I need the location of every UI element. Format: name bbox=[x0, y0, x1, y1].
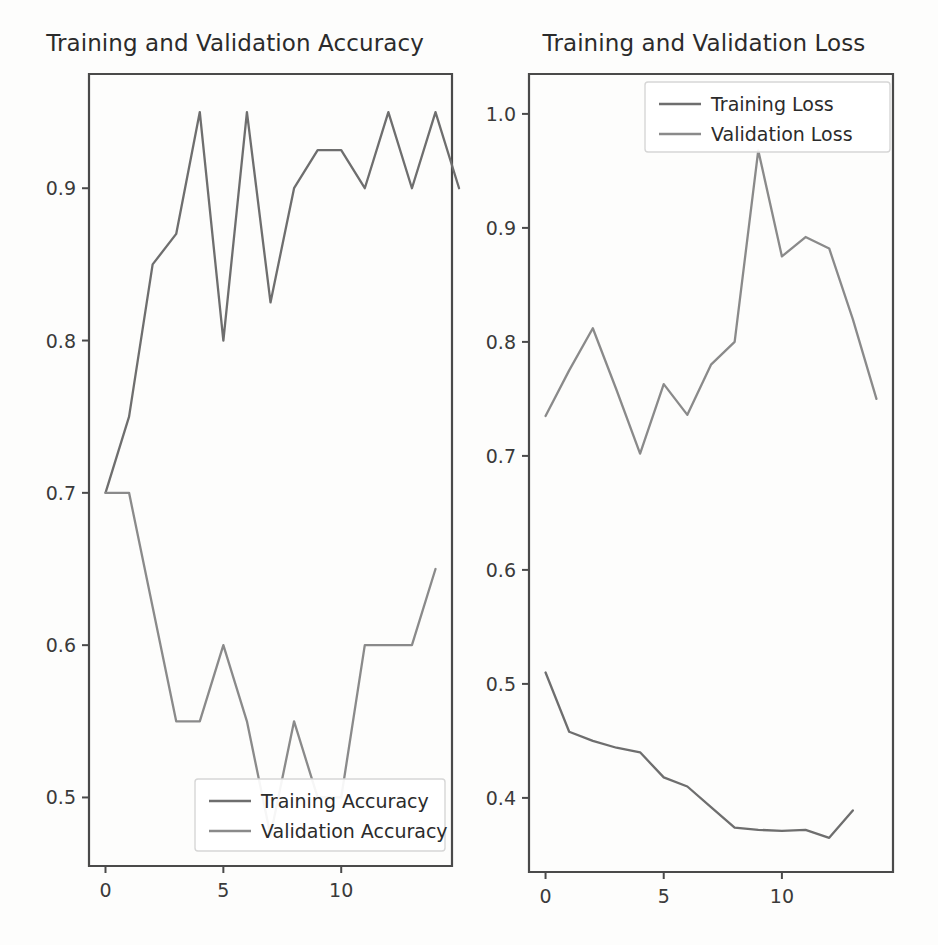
y-tick-label: 0.5 bbox=[486, 673, 516, 695]
y-tick-label: 0.9 bbox=[46, 177, 76, 199]
y-tick-label: 0.4 bbox=[486, 787, 516, 809]
loss-plot-area: 0.40.50.60.70.80.91.00510Training LossVa… bbox=[470, 0, 938, 945]
chart-panel-accuracy: Training and Validation Accuracy 0.50.60… bbox=[0, 0, 470, 945]
x-tick-label: 10 bbox=[770, 885, 794, 907]
figure-root: Training and Validation Accuracy 0.50.60… bbox=[0, 0, 938, 945]
y-tick-label: 0.7 bbox=[486, 445, 516, 467]
y-tick-label: 0.9 bbox=[486, 217, 516, 239]
chart-panel-loss: Training and Validation Loss 0.40.50.60.… bbox=[470, 0, 938, 945]
y-tick-label: 1.0 bbox=[486, 103, 516, 125]
y-tick-label: 0.6 bbox=[46, 634, 76, 656]
legend-label: Training Loss bbox=[710, 93, 834, 115]
x-tick-label: 5 bbox=[217, 879, 229, 901]
series-line-training-loss bbox=[546, 673, 853, 838]
y-tick-label: 0.6 bbox=[486, 559, 516, 581]
legend-label: Training Accuracy bbox=[260, 790, 429, 812]
accuracy-plot-area: 0.50.60.70.80.90510Training AccuracyVali… bbox=[0, 0, 470, 945]
x-tick-label: 0 bbox=[539, 885, 551, 907]
series-line-training-accuracy bbox=[106, 112, 460, 493]
x-tick-label: 0 bbox=[99, 879, 111, 901]
x-tick-label: 10 bbox=[329, 879, 353, 901]
y-tick-label: 0.8 bbox=[486, 331, 516, 353]
y-tick-label: 0.8 bbox=[46, 330, 76, 352]
y-tick-label: 0.5 bbox=[46, 786, 76, 808]
y-tick-label: 0.7 bbox=[46, 482, 76, 504]
x-tick-label: 5 bbox=[658, 885, 670, 907]
series-line-validation-loss bbox=[546, 150, 877, 453]
legend-label: Validation Accuracy bbox=[261, 820, 448, 842]
legend-label: Validation Loss bbox=[711, 123, 853, 145]
